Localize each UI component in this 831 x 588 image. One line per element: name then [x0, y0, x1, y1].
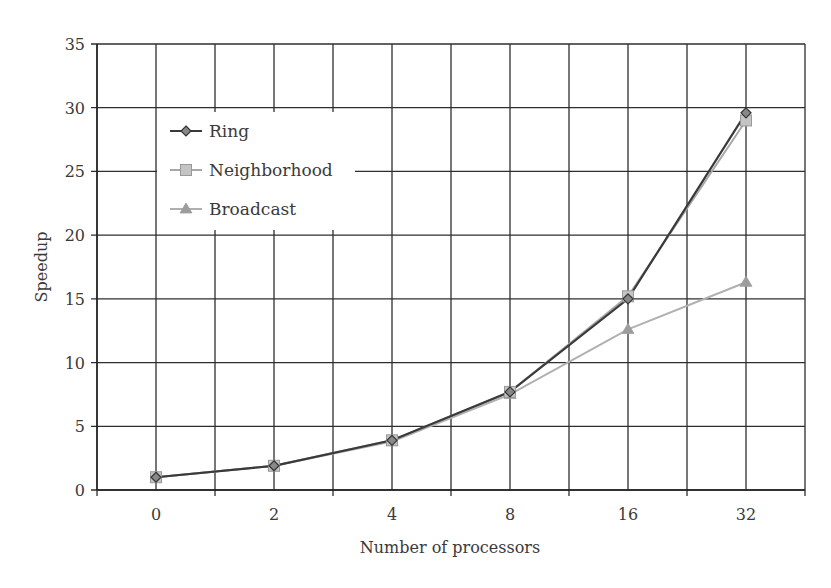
y-tick-label: 20: [65, 226, 85, 245]
y-tick-label: 15: [65, 290, 85, 309]
x-tick-label: 16: [618, 505, 638, 524]
y-tick-label: 5: [75, 417, 85, 436]
legend: RingNeighborhoodBroadcast: [157, 112, 355, 230]
speedup-chart: 05101520253035 02481632 RingNeighborhood…: [0, 0, 831, 588]
x-axis-label: Number of processors: [360, 538, 540, 557]
x-tick-label: 0: [151, 505, 161, 524]
y-axis-label: Speedup: [32, 232, 51, 303]
y-tick-label: 0: [75, 481, 85, 500]
y-tick-label: 30: [65, 99, 85, 118]
x-tick-label: 32: [736, 505, 756, 524]
triangle-marker: [740, 276, 752, 286]
x-tick-label: 8: [505, 505, 515, 524]
legend-label: Ring: [209, 121, 249, 141]
legend-label: Neighborhood: [209, 160, 333, 180]
gridlines: [91, 44, 805, 496]
x-tick-label: 4: [387, 505, 397, 524]
x-tick-labels: 02481632: [151, 505, 756, 524]
y-tick-labels: 05101520253035: [65, 35, 85, 500]
square-marker: [181, 165, 192, 176]
y-tick-label: 25: [65, 162, 85, 181]
legend-label: Broadcast: [209, 199, 296, 219]
y-tick-label: 35: [65, 35, 85, 54]
y-tick-label: 10: [65, 354, 85, 373]
x-tick-label: 2: [269, 505, 279, 524]
